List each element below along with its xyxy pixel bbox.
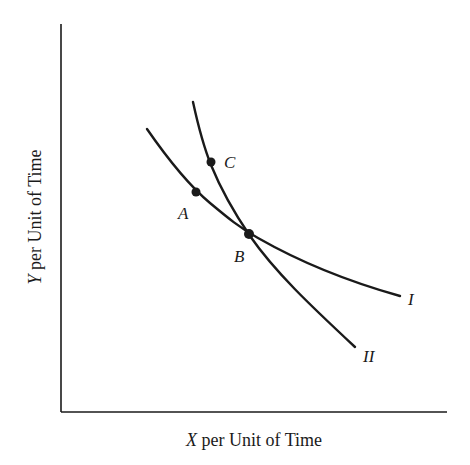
point-c-marker <box>207 158 216 167</box>
indifference-curves-diagram: A C B I II X per Unit of Time Y per Unit… <box>0 0 470 465</box>
point-a-marker <box>192 188 201 197</box>
curve-i-label: I <box>407 290 415 309</box>
y-axis-label-rest: per Unit of Time <box>25 149 45 274</box>
point-c-label: C <box>224 153 236 172</box>
point-b-marker <box>244 229 254 239</box>
y-axis-label: Y per Unit of Time <box>25 149 45 284</box>
x-axis-label: X per Unit of Time <box>185 430 322 450</box>
x-axis-label-rest: per Unit of Time <box>197 430 322 450</box>
point-b-label: B <box>234 247 245 266</box>
curve-ii <box>193 102 355 347</box>
curve-ii-label: II <box>362 347 376 366</box>
point-a-label: A <box>177 204 189 223</box>
